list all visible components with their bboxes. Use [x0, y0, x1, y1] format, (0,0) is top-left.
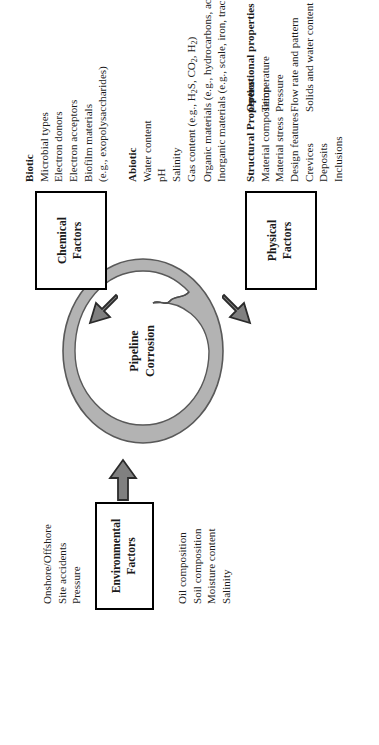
list-item: Temperature	[258, 3, 273, 112]
gas-sub-2: 2	[189, 58, 198, 62]
list-item: Moisture content	[204, 528, 219, 604]
diagram-stage: Pipeline Corrosion Environmental Factors…	[0, 0, 379, 745]
list-item: Pressure	[272, 3, 287, 112]
list-abiotic: Abiotic Water content pH Salinity Gas co…	[125, 0, 229, 182]
list-item: Salinity	[219, 528, 234, 604]
gas-prefix: Gas content (e.g., H	[185, 93, 197, 182]
list-item: Oil composition	[175, 528, 190, 604]
list-item: Flow rate and pattern	[287, 3, 302, 112]
list-item: Soil composition	[190, 528, 205, 604]
list-item: Microbial types	[37, 66, 52, 182]
list-item-organic: Organic materials (e.g., hydrocarbons, a…	[200, 0, 215, 182]
figure-canvas: Pipeline Corrosion Environmental Factors…	[0, 0, 379, 745]
list-item: Electron acceptors	[66, 66, 81, 182]
box-physical-factors[interactable]: Physical Factors	[245, 191, 317, 290]
list-operational-properties: Operational properties Temperature Press…	[243, 3, 316, 112]
gas-sub-1: 2	[189, 89, 198, 93]
list-biotic: Biotic Microbial types Electron donors E…	[22, 66, 110, 182]
list-item: Pressure	[69, 524, 84, 604]
list-heading: Operational properties	[243, 3, 258, 112]
list-item: (e.g., exopolysaccharides)	[95, 66, 110, 182]
list-environment-medium: Oil composition Soil composition Moistur…	[175, 528, 234, 604]
arrow-physical-icon	[222, 293, 262, 337]
gas-mid: S, CO	[185, 62, 197, 89]
list-item: Solids and water content	[302, 3, 317, 112]
box-physical-line2: Factors	[281, 222, 296, 259]
gas-end: )	[185, 37, 197, 41]
list-item-inorganic: Inorganic materials (e.g., scale, iron, …	[214, 0, 229, 182]
gas-suffix: , H	[185, 45, 197, 59]
list-item: Biofilm materials	[81, 66, 96, 182]
center-label-line1: Pipeline	[127, 330, 143, 371]
arrow-chemical-icon	[78, 293, 118, 335]
box-environmental-line1: Environmental	[110, 519, 125, 594]
list-item: Salinity	[169, 0, 184, 182]
box-environmental-line2: Factors	[125, 537, 140, 574]
gas-sub-3: 2	[189, 41, 198, 45]
list-item: Deposits	[316, 81, 331, 182]
box-environmental-factors[interactable]: Environmental Factors	[95, 502, 154, 610]
box-chemical-line1: Chemical	[56, 217, 71, 264]
list-heading: Abiotic	[125, 0, 140, 182]
list-item: Water content	[140, 0, 155, 182]
list-item: Electron donors	[51, 66, 66, 182]
list-item-gas-content: Gas content (e.g., H2S, CO2, H2)	[184, 0, 200, 182]
box-chemical-line2: Factors	[71, 222, 86, 259]
list-environment-site: Onshore/Offshore Site accidents Pressure	[40, 524, 84, 604]
list-heading: Biotic	[22, 66, 37, 182]
list-item: Site accidents	[55, 524, 70, 604]
list-item: pH	[154, 0, 169, 182]
box-chemical-factors[interactable]: Chemical Factors	[35, 191, 107, 290]
center-label-line2: Corrosion	[143, 325, 159, 377]
list-item: Inclusions	[331, 81, 346, 182]
list-item: Onshore/Offshore	[40, 524, 55, 604]
box-physical-line1: Physical	[266, 220, 281, 261]
arrow-environmental-icon	[108, 458, 138, 502]
